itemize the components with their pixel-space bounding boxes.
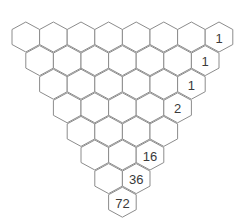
hex-value: 2 [174, 101, 181, 116]
hex-value: 1 [188, 78, 195, 93]
hex-value: 36 [129, 172, 143, 187]
hex-value: 72 [115, 196, 129, 211]
hex-puzzle-board: 1112163672 [0, 0, 241, 224]
hex-value: 16 [143, 149, 157, 164]
hex-value: 1 [202, 54, 209, 69]
hex-value: 1 [215, 31, 222, 46]
